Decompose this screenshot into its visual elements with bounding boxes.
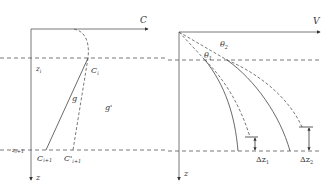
zi1-label: zi+1 xyxy=(11,146,24,154)
g-solid-line xyxy=(46,58,88,150)
left-panel: C z zi zi+1 Ci Ci+1 C'i+1 g g' xyxy=(0,15,167,182)
z-axis-label-right: z xyxy=(183,169,189,178)
g-label: g xyxy=(72,94,77,103)
ci1-label: Ci+1 xyxy=(37,154,52,163)
c-axis-label: C xyxy=(140,15,147,25)
gp-dashed-line xyxy=(73,58,88,150)
gp-label: g' xyxy=(105,103,112,112)
dashed-curve-1 xyxy=(205,60,250,137)
dz1-label: Δz1 xyxy=(256,155,269,165)
dashed-curve-2 xyxy=(227,60,302,127)
dz2-label: Δz2 xyxy=(300,155,313,165)
solid-curve-1 xyxy=(205,60,238,151)
ci-label: Ci xyxy=(91,66,99,76)
right-panel: V z θ1 θ2 Δz1 Δz2 xyxy=(168,16,321,180)
ray-theta1 xyxy=(179,32,205,60)
cpi1-label: C'i+1 xyxy=(64,154,81,164)
theta1-label: θ1 xyxy=(204,51,212,61)
zi-label: zi xyxy=(35,65,42,74)
v-axis-label: V xyxy=(313,16,321,26)
left-dashed-curve xyxy=(74,29,88,58)
diagram-canvas: C z zi zi+1 Ci Ci+1 C'i+1 g g' V z θ1 xyxy=(0,0,334,191)
z-axis-label-left: z xyxy=(35,173,41,182)
theta2-label: θ2 xyxy=(220,40,228,50)
